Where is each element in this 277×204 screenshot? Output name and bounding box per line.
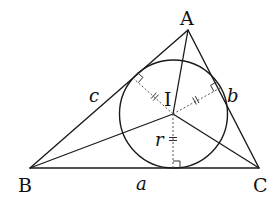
side-label-b: b xyxy=(227,85,239,106)
incircle-diagram: A B C I a b c r xyxy=(0,0,277,204)
right-angle-marker-BC xyxy=(173,161,180,168)
radius-to-AC xyxy=(173,88,220,114)
side-b-AC xyxy=(188,30,259,168)
side-label-c: c xyxy=(89,85,99,106)
inradius-label-r: r xyxy=(155,129,165,150)
incenter-label-I: I xyxy=(164,88,172,110)
vertex-label-C: C xyxy=(253,174,268,196)
bisector-B xyxy=(30,114,173,168)
side-label-a: a xyxy=(136,173,147,194)
bisector-A xyxy=(173,30,188,114)
right-angle-marker-AB xyxy=(138,73,143,83)
bisector-C xyxy=(173,114,259,168)
tick-marks-radius-AC xyxy=(193,96,199,104)
vertex-label-A: A xyxy=(179,7,194,29)
vertex-label-B: B xyxy=(18,174,32,196)
